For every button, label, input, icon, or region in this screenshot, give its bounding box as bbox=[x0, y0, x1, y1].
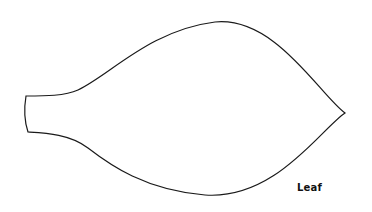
leaf-label: Leaf bbox=[297, 182, 322, 193]
leaf-diagram bbox=[0, 0, 372, 212]
leaf-outline bbox=[25, 22, 345, 196]
